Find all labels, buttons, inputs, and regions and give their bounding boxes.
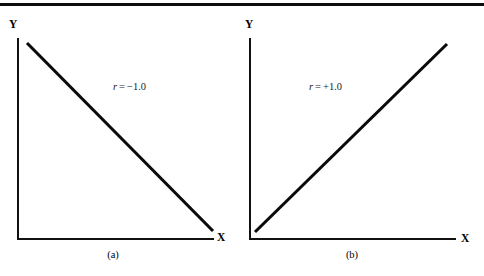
chart-panel-b: Y X r=+1.0 (b) — [242, 0, 484, 276]
panel-caption-a: (a) — [83, 250, 143, 261]
figure-root: Y X r=−1.0 (a) Y X r=+1.0 (b) — [0, 0, 484, 276]
correlation-relation-b: = — [313, 81, 323, 92]
correlation-value-a: −1.0 — [127, 81, 146, 92]
panel-caption-b: (b) — [322, 250, 382, 261]
correlation-annotation-a: r=−1.0 — [113, 82, 146, 93]
plot-area-b — [242, 0, 484, 276]
correlation-relation-a: = — [117, 81, 127, 92]
correlation-value-b: +1.0 — [323, 81, 342, 92]
data-line-positive — [255, 44, 447, 232]
plot-area-a — [0, 0, 242, 276]
correlation-annotation-b: r=+1.0 — [309, 82, 342, 93]
data-line-negative — [27, 43, 213, 231]
chart-panel-a: Y X r=−1.0 (a) — [0, 0, 242, 276]
